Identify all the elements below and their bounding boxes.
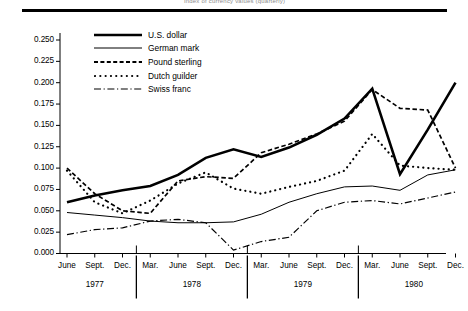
x-tick-label: Dec. xyxy=(439,261,468,270)
legend-item-swiss-franc: Swiss franc xyxy=(94,82,202,96)
series-line-u-s-dollar xyxy=(67,83,456,203)
legend-label-pound-sterling: Pound sterling xyxy=(148,57,202,67)
legend-item-german-mark: German mark xyxy=(94,42,202,56)
series-line-swiss-franc xyxy=(67,192,456,250)
series-line-pound-sterling xyxy=(67,90,456,214)
legend-swatch-swiss-franc xyxy=(94,84,142,94)
y-tick-label: 0.125 xyxy=(14,142,54,151)
legend-item-pound-sterling: Pound sterling xyxy=(94,55,202,69)
y-tick-label: 0.050 xyxy=(14,206,54,215)
legend-label-us-dollar: U.S. dollar xyxy=(148,30,187,40)
series-line-dutch-guilder xyxy=(67,134,456,213)
series-line-german-mark xyxy=(67,170,456,223)
legend-swatch-german-mark xyxy=(94,43,142,53)
y-tick-label: 0.225 xyxy=(14,56,54,65)
y-tick-label: 0.150 xyxy=(14,120,54,129)
legend-item-dutch-guilder: Dutch guilder xyxy=(94,69,202,83)
legend: U.S. dollar German mark Pound sterling D… xyxy=(94,28,202,96)
x-year-label: 1979 xyxy=(283,280,323,289)
y-tick-label: 0.250 xyxy=(14,35,54,44)
legend-swatch-us-dollar xyxy=(94,30,142,40)
y-tick-label: 0.200 xyxy=(14,78,54,87)
y-tick-label: 0.100 xyxy=(14,163,54,172)
legend-swatch-pound-sterling xyxy=(94,57,142,67)
legend-label-swiss-franc: Swiss franc xyxy=(148,84,191,94)
x-year-label: 1980 xyxy=(394,280,434,289)
legend-label-dutch-guilder: Dutch guilder xyxy=(148,71,197,81)
legend-label-german-mark: German mark xyxy=(148,43,199,53)
x-year-label: 1977 xyxy=(75,280,115,289)
y-tick-label: 0.025 xyxy=(14,227,54,236)
y-tick-label: 0.075 xyxy=(14,184,54,193)
x-year-label: 1978 xyxy=(172,280,212,289)
legend-item-us-dollar: U.S. dollar xyxy=(94,28,202,42)
legend-swatch-dutch-guilder xyxy=(94,71,142,81)
y-tick-label: 0.175 xyxy=(14,99,54,108)
y-tick-label: 0.000 xyxy=(14,248,54,257)
